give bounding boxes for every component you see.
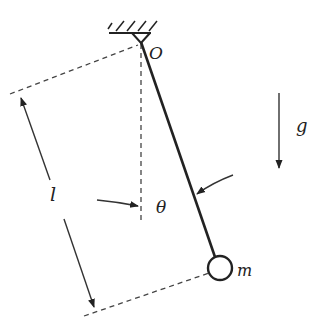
length-arrow-up: [21, 98, 50, 180]
length-label: l: [50, 183, 56, 205]
pendulum-diagram: O l θ m g: [0, 0, 322, 322]
length-extension-top: [10, 45, 138, 94]
gravity-label: g: [296, 115, 308, 136]
length-extension-bottom: [84, 272, 212, 316]
length-arrow-down: [64, 219, 94, 307]
angle-arrow-right: [197, 175, 233, 194]
angle-label: θ: [156, 197, 166, 217]
ceiling-support: [108, 21, 157, 43]
mass-label: m: [237, 261, 252, 280]
pendulum-rod: [141, 42, 215, 257]
pendulum-bob: [208, 256, 232, 280]
angle-arrow-left: [97, 200, 138, 206]
pivot-label: O: [149, 43, 163, 63]
